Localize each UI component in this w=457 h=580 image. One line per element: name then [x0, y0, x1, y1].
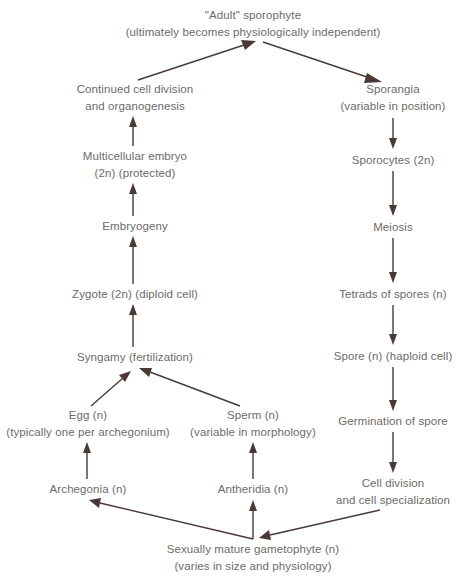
node-label: Sporocytes (2n)	[352, 152, 435, 169]
node-sporocytes: Sporocytes (2n)	[352, 152, 435, 169]
arrow-continued-division-to-adult-sporophyte	[138, 40, 256, 80]
node-germination: Germination of spore	[338, 413, 447, 430]
node-label: Cell division	[336, 475, 450, 492]
arrow-sporocytes-to-meiosis	[389, 171, 397, 216]
arrow-adult-sporophyte-to-sporangia	[263, 42, 382, 83]
arrow-egg-to-syngamy	[91, 371, 131, 406]
node-label: Sperm (n)	[190, 407, 316, 424]
arrow-gametophyte-to-antheridia	[249, 500, 257, 539]
node-sublabel: (variable in morphology)	[190, 424, 316, 441]
node-label: Archegonia (n)	[50, 481, 127, 498]
node-label: Tetrads of spores (n)	[339, 286, 447, 303]
arrow-tetrads-to-spore	[389, 305, 397, 345]
node-sublabel: (typically one per archegonium)	[6, 424, 170, 441]
node-label: "Adult" sporophyte	[126, 7, 381, 24]
node-sublabel: and cell specialization	[336, 492, 450, 509]
node-sublabel: (varies in size and physiology)	[167, 558, 340, 575]
node-sublabel: (2n) (protected)	[83, 165, 187, 182]
node-continued-cell-division: Continued cell division and organogenesi…	[77, 81, 194, 115]
arrow-syngamy-to-zygote	[129, 304, 137, 347]
node-sublabel: (ultimately becomes physiologically inde…	[126, 24, 381, 41]
node-label: Antheridia (n)	[218, 481, 288, 498]
node-spore: Spore (n) (haploid cell)	[334, 348, 453, 365]
node-label: Multicellular embryo	[83, 148, 187, 165]
node-cell-division: Cell division and cell specialization	[336, 475, 450, 509]
node-adult-sporophyte: "Adult" sporophyte (ultimately becomes p…	[126, 7, 381, 41]
arrow-spore-to-germination	[389, 367, 397, 411]
arrow-antheridia-to-sperm	[249, 442, 257, 479]
arrow-archegonia-to-egg	[83, 442, 91, 479]
node-sperm: Sperm (n) (variable in morphology)	[190, 407, 316, 441]
node-embryogeny: Embryogeny	[102, 218, 168, 235]
node-label: Continued cell division	[77, 81, 194, 98]
node-archegonia: Archegonia (n)	[50, 481, 127, 498]
node-label: Syngamy (fertilization)	[77, 349, 193, 366]
node-syngamy: Syngamy (fertilization)	[77, 349, 193, 366]
arrow-meiosis-to-tetrads	[389, 238, 397, 283]
arrow-embryo-to-continued-division	[129, 116, 137, 146]
arrow-cell-division-to-gametophyte	[259, 510, 380, 540]
node-zygote: Zygote (2n) (diploid cell)	[72, 286, 198, 303]
node-label: Meiosis	[373, 219, 413, 236]
node-meiosis: Meiosis	[373, 219, 413, 236]
node-sexually-mature-gametophyte: Sexually mature gametophyte (n) (varies …	[167, 541, 340, 575]
arrow-zygote-to-embryogeny	[129, 236, 137, 284]
arrow-sperm-to-syngamy	[139, 368, 240, 406]
node-label: Spore (n) (haploid cell)	[334, 348, 453, 365]
arrow-embryogeny-to-embryo	[129, 183, 137, 216]
node-label: Egg (n)	[6, 407, 170, 424]
node-sublabel: (variable in position)	[340, 98, 445, 115]
arrow-sporangia-to-sporocytes	[389, 118, 397, 149]
node-tetrads: Tetrads of spores (n)	[339, 286, 447, 303]
node-antheridia: Antheridia (n)	[218, 481, 288, 498]
node-multicellular-embryo: Multicellular embryo (2n) (protected)	[83, 148, 187, 182]
node-label: Embryogeny	[102, 218, 168, 235]
node-label: Sporangia	[340, 81, 445, 98]
life-cycle-diagram: "Adult" sporophyte (ultimately becomes p…	[0, 0, 457, 580]
arrow-germination-to-cell-division	[389, 432, 397, 473]
node-label: Germination of spore	[338, 413, 447, 430]
arrow-gametophyte-to-archegonia	[89, 498, 253, 539]
node-label: Zygote (2n) (diploid cell)	[72, 286, 198, 303]
node-sporangia: Sporangia (variable in position)	[340, 81, 445, 115]
node-label: Sexually mature gametophyte (n)	[167, 541, 340, 558]
node-egg: Egg (n) (typically one per archegonium)	[6, 407, 170, 441]
node-sublabel: and organogenesis	[77, 98, 194, 115]
